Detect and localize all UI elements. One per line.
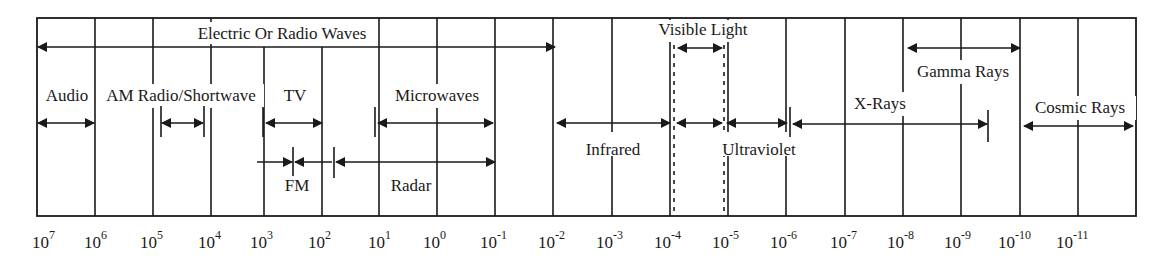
tick-label: 10-8 [887,228,914,252]
infrared-label: Infrared [586,140,641,159]
tick-label: 10-3 [596,228,623,252]
tick-label: 105 [140,228,163,252]
tick-label: 101 [368,228,391,252]
x-rays-label: X-Rays [854,94,906,113]
wavelength-axis-labels: 107 106 105 104 103 102 101 100 10-1 10-… [32,228,1089,252]
tick-label: 10-5 [712,228,739,252]
tick-label: 107 [32,228,55,252]
tick-label: 103 [250,228,273,252]
cosmic-rays-label: Cosmic Rays [1035,98,1125,117]
tick-label: 10-11 [1056,228,1089,252]
tick-label: 10-7 [830,228,857,252]
ultraviolet-label: Ultraviolet [722,140,796,159]
tick-label: 104 [198,228,221,252]
tick-label: 10-2 [538,228,565,252]
microwaves-label: Microwaves [395,86,479,105]
visible-light-label: Visible Light [658,20,747,39]
tick-label: 10-6 [770,228,797,252]
tick-label: 10-1 [480,228,507,252]
tick-label: 102 [308,228,331,252]
am-radio-label: AM Radio/Shortwave [106,86,256,105]
radar-label: Radar [391,176,432,195]
tick-label: 10-4 [654,228,681,252]
tv-label: TV [284,86,307,105]
electromagnetic-spectrum-diagram: Electric Or Radio Waves Visible Light Ga… [0,0,1167,274]
tick-label: 106 [84,228,107,252]
electric-radio-waves-label: Electric Or Radio Waves [198,24,367,43]
tick-label: 10-10 [998,228,1031,252]
tick-label: 10-9 [944,228,971,252]
gamma-rays-label: Gamma Rays [917,62,1009,81]
audio-label: Audio [46,86,89,105]
tick-label: 100 [423,228,446,252]
fm-label: FM [285,176,310,195]
